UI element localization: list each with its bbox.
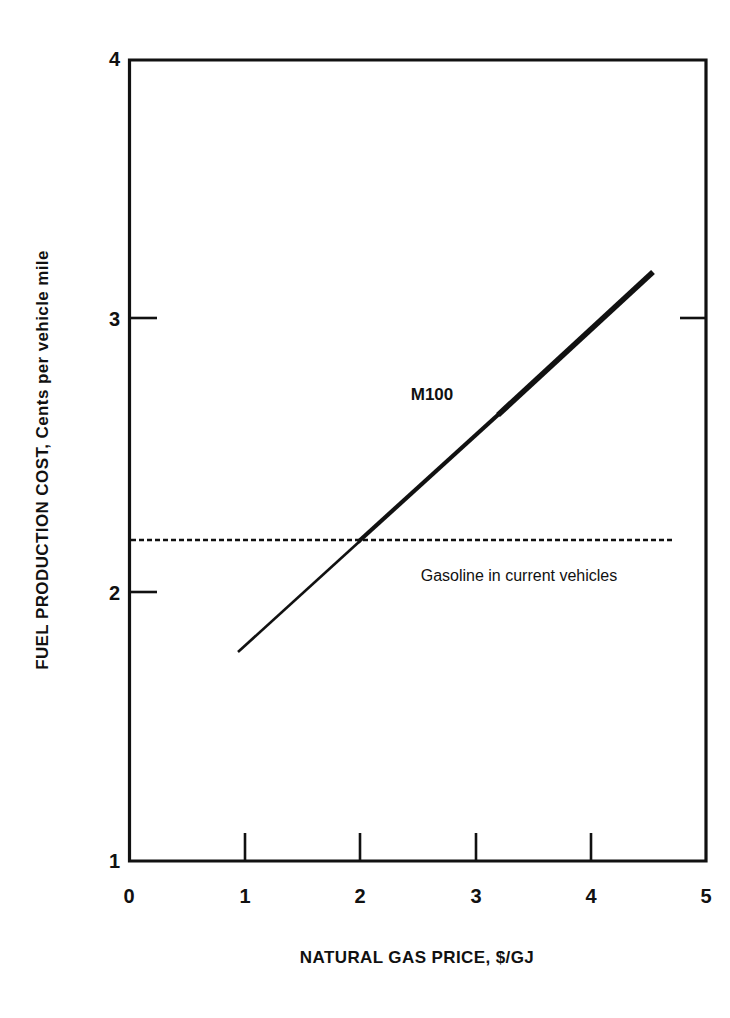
fuel-production-cost-chart: 4 3 2 1 0 1 2 3 4 5 M100 Gasoline in cur…	[0, 0, 730, 1018]
x-tick-label-0: 0	[123, 885, 134, 907]
y-tick-label-1: 1	[109, 850, 120, 872]
x-tick-label-3: 3	[470, 885, 481, 907]
m100-series	[238, 272, 653, 652]
m100-line-segment-lower	[238, 541, 360, 652]
y-axis-tick-labels: 4 3 2 1	[109, 48, 121, 872]
x-axis-ticks	[245, 833, 591, 861]
m100-line-segment-upper	[498, 272, 653, 415]
y-tick-label-3: 3	[109, 308, 120, 330]
figure-container: 4 3 2 1 0 1 2 3 4 5 M100 Gasoline in cur…	[0, 0, 730, 1018]
m100-label: M100	[411, 385, 454, 404]
x-tick-label-1: 1	[239, 885, 250, 907]
x-axis-tick-labels: 0 1 2 3 4 5	[123, 885, 711, 907]
y-tick-label-2: 2	[109, 582, 120, 604]
m100-line-segment-mid	[358, 413, 500, 542]
x-tick-label-2: 2	[354, 885, 365, 907]
x-tick-label-4: 4	[585, 885, 597, 907]
y-axis-title: FUEL PRODUCTION COST, Cents per vehicle …	[33, 250, 52, 670]
y-tick-label-4: 4	[109, 48, 121, 70]
x-axis-title: NATURAL GAS PRICE, $/GJ	[300, 948, 534, 967]
plot-frame	[130, 60, 707, 861]
x-tick-label-5: 5	[700, 885, 711, 907]
series-annotations: M100 Gasoline in current vehicles	[411, 385, 618, 584]
gasoline-label: Gasoline in current vehicles	[421, 567, 618, 584]
y-axis-ticks	[131, 318, 157, 592]
